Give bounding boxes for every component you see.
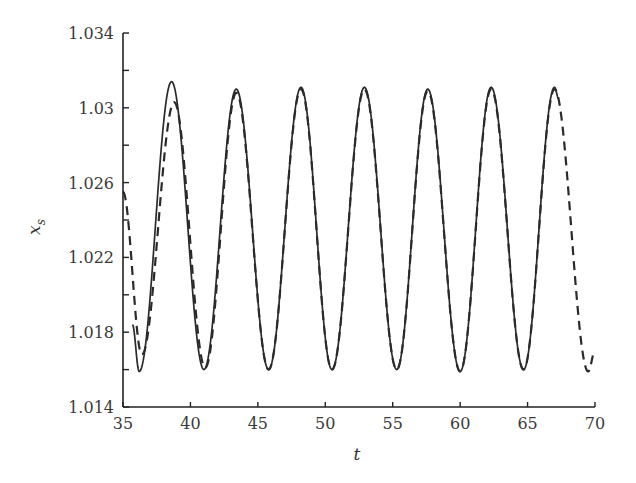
y-axis-label-main: x <box>24 225 44 235</box>
x-tick-label: 35 <box>113 414 133 433</box>
x-tick-label: 45 <box>248 414 268 433</box>
y-axis-label-subscript: s <box>34 219 48 225</box>
y-tick-label: 1.018 <box>68 323 114 342</box>
x-tick-label: 40 <box>180 414 200 433</box>
x-tick-label: 50 <box>315 414 335 433</box>
x-tick-label: 60 <box>450 414 470 433</box>
x-tick-label: 70 <box>585 414 605 433</box>
plot-curves <box>123 82 595 372</box>
x-tick-label: 65 <box>517 414 537 433</box>
y-tick-label: 1.026 <box>68 174 114 193</box>
dashed-series-line <box>123 89 595 371</box>
y-axis-ticks: 1.0141.0181.0221.0261.031.034 <box>68 24 129 417</box>
y-axis-label: xs <box>24 219 48 235</box>
y-tick-label: 1.03 <box>78 99 114 118</box>
x-tick-label: 55 <box>383 414 403 433</box>
axes <box>123 33 595 407</box>
x-axis-label: t <box>354 444 361 464</box>
svg-text:xs: xs <box>24 219 48 235</box>
y-tick-label: 1.014 <box>68 398 114 417</box>
y-tick-label: 1.034 <box>68 24 114 43</box>
line-chart: 1.0141.0181.0221.0261.031.034 3540455055… <box>0 0 636 483</box>
y-tick-label: 1.022 <box>68 248 114 267</box>
